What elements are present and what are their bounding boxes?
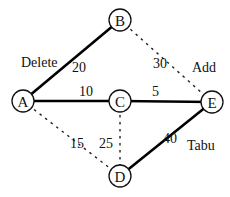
node-e: E [201,91,223,113]
node-d-label: D [115,169,126,185]
weight-c-e: 5 [152,84,159,99]
node-a-label: A [18,94,29,110]
graph-diagram: 20 10 5 40 30 15 25 Delete Add Tabu A B … [0,0,230,197]
weight-a-d: 15 [70,136,84,151]
annotation-add: Add [192,60,216,75]
weight-a-c: 10 [79,84,93,99]
weight-a-b: 20 [72,60,86,75]
node-b-label: B [115,13,125,29]
node-c-label: C [115,94,125,110]
weight-b-e: 30 [153,56,167,71]
node-a: A [12,90,34,112]
weight-d-e: 40 [163,131,177,146]
node-c: C [109,90,131,112]
annotation-tabu: Tabu [187,138,215,153]
edge-c-e [120,101,212,102]
node-b: B [109,9,131,31]
node-e-label: E [207,95,216,111]
weight-c-d: 25 [99,136,113,151]
annotation-delete: Delete [21,55,58,70]
node-d: D [109,165,131,187]
